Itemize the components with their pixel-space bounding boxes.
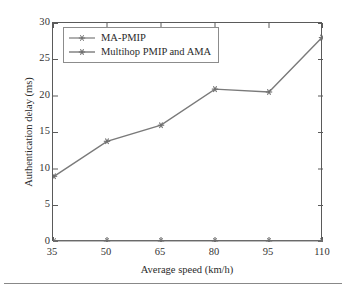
x-tick-label-80: 80 bbox=[194, 246, 234, 257]
legend-marker-ma-pmip bbox=[68, 32, 96, 44]
x-tick-label-35: 35 bbox=[32, 246, 72, 257]
x-tick-label-110: 110 bbox=[302, 246, 342, 257]
figure-container: 30 25 20 15 10 5 0 35 50 65 80 95 110 bbox=[0, 0, 346, 291]
y-tick-label-0: 0 bbox=[10, 236, 50, 247]
x-tick-label-50: 50 bbox=[86, 246, 126, 257]
legend-item-ma-pmip: MA-PMIP bbox=[68, 31, 211, 45]
series-ma-pmip bbox=[53, 238, 323, 242]
y-axis-title: Authentication delay (ms) bbox=[23, 52, 35, 212]
x-tick-label-65: 65 bbox=[140, 246, 180, 257]
x-tick-label-95: 95 bbox=[248, 246, 288, 257]
bottom-divider bbox=[4, 283, 342, 284]
chart-legend: MA-PMIP Multihop PMIP and AMA bbox=[63, 27, 219, 63]
y-tick-label-30: 30 bbox=[10, 17, 50, 28]
legend-label-ma-pmip: MA-PMIP bbox=[101, 32, 146, 44]
x-axis-title: Average speed (km/h) bbox=[52, 264, 322, 276]
plot-area: MA-PMIP Multihop PMIP and AMA bbox=[52, 22, 322, 241]
legend-marker-multihop-pmip-and-ama bbox=[68, 46, 96, 58]
legend-label-multihop-pmip-and-ama: Multihop PMIP and AMA bbox=[101, 46, 211, 58]
legend-item-multihop-pmip-and-ama: Multihop PMIP and AMA bbox=[68, 45, 211, 59]
